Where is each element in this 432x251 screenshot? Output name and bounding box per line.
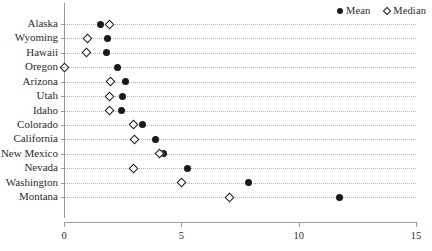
category-label: Nevada (24, 160, 58, 175)
y-axis-tick (61, 125, 65, 126)
data-point-median[interactable] (105, 19, 115, 29)
y-axis-tick (61, 24, 65, 25)
data-point-mean[interactable] (97, 21, 104, 28)
category-label: Alaska (27, 16, 58, 31)
data-point-mean[interactable] (152, 136, 159, 143)
x-axis-tick (416, 222, 417, 227)
data-point-median[interactable] (105, 91, 115, 101)
data-point-mean[interactable] (114, 64, 121, 71)
data-point-mean[interactable] (118, 107, 125, 114)
gridline (64, 154, 416, 155)
data-point-mean[interactable] (119, 93, 126, 100)
category-label: New Mexico (1, 146, 58, 161)
category-label: Hawaii (26, 45, 58, 60)
gridline (64, 139, 416, 140)
data-point-mean[interactable] (245, 179, 252, 186)
plot-area: AlaskaWyomingHawaiiOregonArizonaUtahIdah… (64, 3, 416, 218)
dot-plot-chart: Mean Median AlaskaWyomingHawaiiOregonAri… (0, 0, 432, 251)
y-axis-tick (61, 183, 65, 184)
data-point-median[interactable] (106, 77, 116, 87)
gridline (64, 38, 416, 39)
gridline (64, 125, 416, 126)
data-point-mean[interactable] (139, 121, 146, 128)
data-point-mean[interactable] (104, 35, 111, 42)
y-axis-tick (61, 67, 65, 68)
category-label: Colorado (17, 117, 58, 132)
x-axis-tick-label: 10 (293, 229, 304, 243)
category-label: Montana (19, 189, 58, 204)
y-axis-tick (61, 154, 65, 155)
data-point-median[interactable] (81, 48, 91, 58)
x-axis-tick-label: 15 (411, 229, 422, 243)
category-label: Idaho (33, 103, 58, 118)
category-label: Wyoming (15, 30, 58, 45)
category-label: Oregon (25, 59, 58, 74)
y-axis-tick (61, 197, 65, 198)
x-axis-tick (299, 222, 300, 227)
data-point-mean[interactable] (122, 78, 129, 85)
gridline (64, 197, 416, 198)
data-point-median[interactable] (105, 106, 115, 116)
category-label: California (13, 131, 58, 146)
gridline (64, 96, 416, 97)
gridline (64, 82, 416, 83)
gridline (64, 183, 416, 184)
gridline (64, 168, 416, 169)
x-axis-tick-label: 5 (179, 229, 184, 243)
y-axis-tick (61, 82, 65, 83)
gridline (64, 53, 416, 54)
data-point-median[interactable] (128, 163, 138, 173)
y-axis-tick (61, 53, 65, 54)
data-point-mean[interactable] (336, 194, 343, 201)
category-label: Arizona (23, 74, 58, 89)
x-axis-tick-label: 0 (61, 229, 66, 243)
gridline (64, 24, 416, 25)
data-point-median[interactable] (128, 120, 138, 130)
data-point-median[interactable] (224, 192, 234, 202)
gridline (64, 111, 416, 112)
y-axis-tick (61, 96, 65, 97)
x-axis-tick (181, 222, 182, 227)
y-axis-tick (61, 111, 65, 112)
y-axis-tick (61, 168, 65, 169)
data-point-median[interactable] (83, 33, 93, 43)
x-axis-tick (64, 222, 65, 227)
data-point-mean[interactable] (184, 165, 191, 172)
y-axis-tick (61, 38, 65, 39)
y-axis-tick (61, 139, 65, 140)
data-point-mean[interactable] (103, 49, 110, 56)
data-point-median[interactable] (176, 178, 186, 188)
category-label: Washington (6, 175, 58, 190)
data-point-median[interactable] (129, 134, 139, 144)
x-axis-line (64, 222, 416, 223)
category-label: Utah (37, 88, 58, 103)
